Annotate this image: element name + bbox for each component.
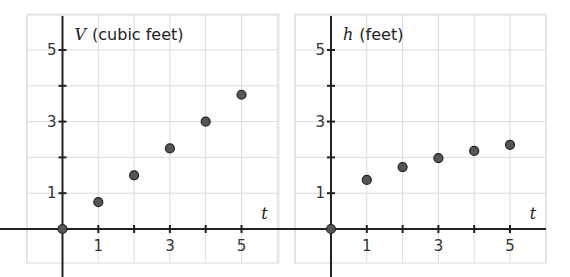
data-point: [434, 154, 443, 163]
x-tick-label: 3: [434, 237, 444, 255]
data-point: [506, 140, 515, 149]
y-tick-label: 1: [47, 184, 57, 202]
data-point: [130, 171, 139, 180]
x-axis-label: t: [530, 204, 537, 223]
data-point: [165, 144, 174, 153]
y-tick-label: 3: [315, 113, 325, 131]
y-tick-label: 5: [47, 41, 57, 59]
x-tick-label: 5: [505, 237, 515, 255]
y-axis-label: V(cubic feet): [75, 25, 184, 44]
y-tick-label: 5: [315, 41, 325, 59]
data-point: [398, 163, 407, 172]
x-axis-label: t: [261, 204, 268, 223]
height-chart: 135135h(feet)t: [269, 0, 559, 277]
data-points: [327, 140, 515, 233]
y-axis-label: h(feet): [343, 25, 403, 44]
data-point: [362, 175, 371, 184]
data-point: [470, 146, 479, 155]
data-point: [58, 225, 67, 234]
data-point: [327, 225, 336, 234]
data-point: [201, 117, 210, 126]
x-tick-label: 3: [165, 237, 175, 255]
data-point: [94, 198, 103, 207]
x-tick-label: 1: [362, 237, 372, 255]
x-tick-label: 5: [237, 237, 247, 255]
x-tick-label: 1: [94, 237, 104, 255]
volume-chart: 135135V(cubic feet)t: [0, 0, 290, 277]
y-tick-label: 1: [315, 184, 325, 202]
y-tick-label: 3: [47, 113, 57, 131]
data-points: [58, 90, 246, 233]
data-point: [237, 90, 246, 99]
